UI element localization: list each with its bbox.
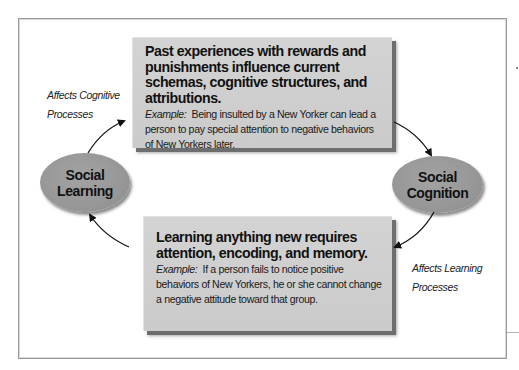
node-label-line1: Social bbox=[407, 169, 469, 185]
top-box-headline: Past experiences with rewards and punish… bbox=[145, 44, 382, 106]
node-label-line2: Learning bbox=[57, 183, 113, 199]
divider-line bbox=[507, 332, 519, 333]
social-learning-node: Social Learning bbox=[40, 153, 130, 212]
top-explanation-box: Past experiences with rewards and punish… bbox=[132, 37, 392, 148]
caption-line1: Affects Cognitive bbox=[47, 86, 120, 105]
bottom-explanation-box: Learning anything new requires attention… bbox=[143, 216, 392, 331]
node-label-line1: Social bbox=[57, 167, 113, 183]
caption-line2: Processes bbox=[47, 105, 120, 124]
artifact-dot bbox=[516, 67, 518, 69]
node-label-line2: Cognition bbox=[407, 185, 469, 201]
top-box-example: Example: Being insulted by a New Yorker … bbox=[145, 107, 382, 152]
example-label: Example: bbox=[156, 263, 197, 275]
bottom-box-headline: Learning anything new requires attention… bbox=[156, 230, 384, 261]
caption-line2: Processes bbox=[412, 278, 482, 297]
affects-cognitive-caption: Affects Cognitive Processes bbox=[47, 86, 120, 124]
bottom-box-example: Example: If a person fails to notice pos… bbox=[156, 262, 384, 307]
example-label: Example: bbox=[145, 108, 186, 120]
affects-learning-caption: Affects Learning Processes bbox=[412, 259, 482, 297]
social-cognition-node: Social Cognition bbox=[392, 156, 483, 213]
caption-line1: Affects Learning bbox=[412, 259, 482, 278]
